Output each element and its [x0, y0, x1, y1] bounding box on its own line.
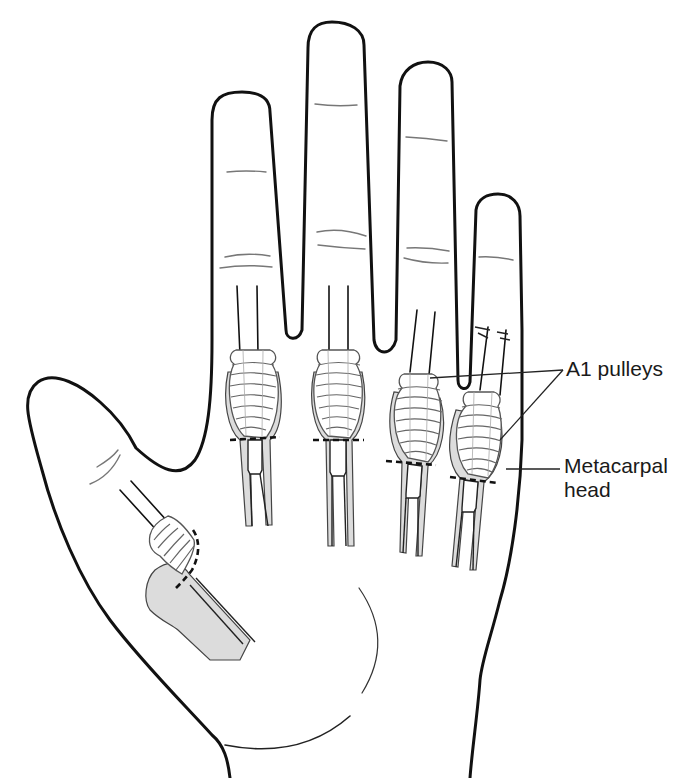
- label-metacarpal-line1: Metacarpal: [564, 454, 668, 478]
- index-a1-pulley: [229, 350, 278, 438]
- middle-a1-pulley: [314, 350, 362, 438]
- label-a1-pulleys: A1 pulleys: [566, 357, 663, 381]
- label-metacarpal-head: Metacarpal head: [564, 454, 668, 502]
- hand-diagram: [0, 0, 689, 778]
- label-metacarpal-line2: head: [564, 478, 668, 502]
